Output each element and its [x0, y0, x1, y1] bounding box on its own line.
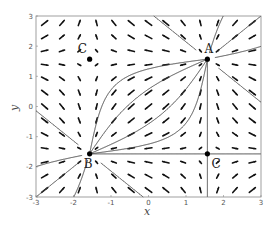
fixed-point-c: [87, 57, 92, 62]
y-tick-label: -2: [26, 163, 33, 171]
phase-portrait: ABCC -3-2-10123 -3-2-10123 x y: [0, 0, 275, 227]
x-axis-label: x: [144, 205, 151, 218]
x-tick-label: -1: [108, 199, 115, 207]
y-tick-label: -3: [26, 194, 33, 202]
fixed-point-b: [87, 151, 92, 156]
x-tick-label: 2: [221, 199, 225, 207]
fixed-point-label: A: [203, 42, 213, 56]
x-tick-label: -3: [33, 199, 40, 207]
x-tick-label: -2: [70, 199, 77, 207]
y-tick-label: -1: [26, 133, 33, 141]
fixed-point-c: [205, 151, 210, 156]
x-tick-label: 1: [184, 199, 188, 207]
fixed-point-label: C: [211, 157, 220, 171]
fixed-point-label: B: [84, 157, 93, 171]
fixed-point-a: [205, 57, 210, 62]
y-tick-label: 3: [29, 13, 33, 21]
y-tick-label: 0: [29, 103, 33, 111]
y-tick-label: 2: [29, 43, 33, 51]
y-tick-label: 1: [29, 73, 33, 81]
fixed-point-label: C: [78, 42, 87, 56]
x-tick-label: 3: [259, 199, 263, 207]
y-axis-label: y: [8, 104, 21, 112]
